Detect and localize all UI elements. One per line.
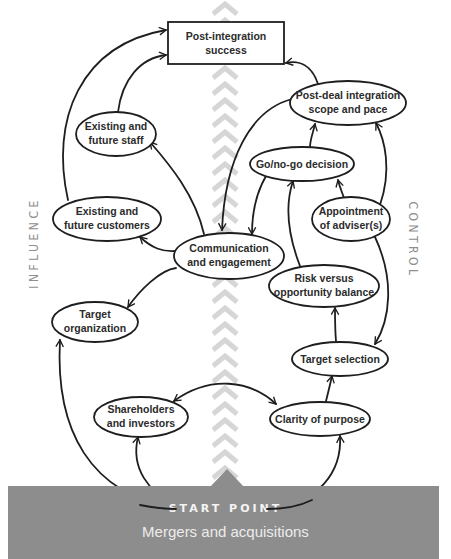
node-label: Communication — [189, 242, 268, 254]
node-label: Risk versus — [295, 272, 354, 284]
node-shareholders: Shareholders and investors — [94, 397, 188, 437]
node-label: success — [205, 44, 247, 56]
node-appointment-advisers: Appointment of adviser(s) — [312, 197, 390, 241]
node-label: scope and pace — [309, 103, 388, 115]
node-existing-staff: Existing and future staff — [76, 112, 156, 156]
edge-clarity-targetselection — [326, 376, 332, 401]
node-label: Existing and — [76, 205, 138, 217]
node-label: organization — [64, 322, 126, 334]
edge-risk-gonogo — [289, 181, 300, 266]
node-label: Go/no-go decision — [256, 158, 348, 170]
node-risk-opportunity: Risk versus opportunity balance — [269, 265, 379, 307]
edge-gonogo-postdeal — [310, 124, 315, 147]
node-label: opportunity balance — [274, 286, 375, 298]
node-label: Post-deal integration — [296, 89, 400, 101]
node-label: Clarity of purpose — [275, 413, 365, 425]
node-label: Target selection — [300, 353, 380, 365]
edge-communication-targetorg — [128, 268, 176, 307]
control-label: CONTROL — [406, 201, 420, 278]
mergers-acquisitions-diagram: Post-integration success Post-deal integ… — [0, 0, 451, 559]
node-go-no-go: Go/no-go decision — [250, 147, 354, 181]
edge-staff-success — [118, 55, 166, 112]
start-point-subtitle: Mergers and acquisitions — [0, 523, 451, 540]
edge-appointment-postdeal — [376, 123, 386, 205]
node-post-deal-integration: Post-deal integration scope and pace — [290, 81, 406, 125]
edge-gonogo-communication — [252, 176, 266, 234]
node-communication: Communication and engagement — [174, 233, 284, 279]
node-label: Shareholders — [107, 403, 174, 415]
node-label: of adviser(s) — [320, 219, 382, 231]
node-target-organization: Target organization — [52, 302, 138, 342]
node-label: future customers — [64, 219, 150, 231]
node-post-integration-success: Post-integration success — [168, 22, 284, 64]
edge-communication-customers — [140, 237, 176, 251]
node-label: and engagement — [187, 256, 271, 268]
node-target-selection: Target selection — [292, 342, 388, 376]
edge-appointment-gonogo — [338, 180, 344, 198]
node-existing-customers: Existing and future customers — [53, 197, 161, 241]
node-clarity-purpose: Clarity of purpose — [270, 402, 370, 436]
node-label: and investors — [107, 417, 175, 429]
node-label: Post-integration — [186, 30, 267, 42]
node-label: future staff — [89, 134, 144, 146]
edge-targetselection-risk — [335, 308, 336, 341]
edge-postdeal-success — [286, 62, 318, 84]
node-label: Target — [79, 308, 111, 320]
influence-label: INFLUENCE — [27, 197, 41, 289]
node-label: Appointment — [319, 205, 384, 217]
node-label: Existing and — [85, 120, 147, 132]
start-point-title: START POINT — [0, 502, 451, 515]
